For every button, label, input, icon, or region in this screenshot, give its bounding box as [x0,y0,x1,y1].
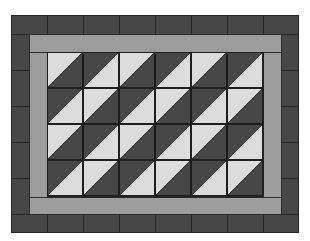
half-square-triangle-icon [84,161,118,195]
outer-border-block-top [47,15,84,35]
gray-strip-top [29,34,282,53]
hst-cell [191,88,227,124]
half-square-triangle-icon [48,53,82,87]
outer-border-block-top [83,15,120,35]
outer-border-block-bottom [191,214,228,233]
half-square-triangle-icon [228,161,262,195]
outer-border-block-top [227,15,264,35]
hst-cell [227,160,263,196]
half-square-triangle-icon [156,161,190,195]
hst-cell [155,124,191,160]
half-square-triangle-icon [156,53,190,87]
outer-border-block-top [155,15,192,35]
half-square-triangle-icon [120,125,154,159]
half-square-triangle-icon [192,125,226,159]
hst-cell [119,52,155,88]
hst-cell [47,124,83,160]
outer-border-block-bottom [47,214,84,233]
half-square-triangle-icon [192,161,226,195]
outer-border-block-bottom [11,214,48,233]
half-square-triangle-icon [120,89,154,123]
gray-strip-right [263,52,282,198]
outer-border-block-bottom [155,214,192,233]
center-field [47,52,264,197]
outer-border-block-top [11,15,48,35]
hst-cell [83,160,119,196]
hst-cell [191,52,227,88]
half-square-triangle-icon [192,53,226,87]
half-square-triangle-icon [48,161,82,195]
hst-cell [47,52,83,88]
hst-cell [119,160,155,196]
outer-border-block-top [263,15,299,35]
half-square-triangle-icon [84,89,118,123]
hst-cell [155,52,191,88]
outer-border-block-left [11,34,30,71]
outer-border-block-right [281,34,299,71]
outer-border-block-bottom [119,214,156,233]
outer-border-block-right [281,178,299,215]
outer-border-block-right [281,70,299,107]
hst-cell [227,88,263,124]
hst-cell [155,160,191,196]
hst-cell [83,52,119,88]
gray-strip-bottom [29,197,282,215]
half-square-triangle-icon [228,89,262,123]
half-square-triangle-icon [156,89,190,123]
hst-cell [191,160,227,196]
outer-border-block-right [281,106,299,143]
outer-border-block-left [11,142,30,179]
half-square-triangle-icon [192,89,226,123]
half-square-triangle-icon [84,53,118,87]
hst-cell [227,52,263,88]
hst-cell [47,160,83,196]
outer-border-block-left [11,178,30,215]
hst-cell [83,124,119,160]
outer-border-block-left [11,70,30,107]
hst-cell [83,88,119,124]
half-square-triangle-icon [120,53,154,87]
outer-border-block-top [119,15,156,35]
outer-border-block-left [11,106,30,143]
half-square-triangle-icon [48,89,82,123]
outer-border-block-bottom [263,214,299,233]
hst-cell [227,124,263,160]
hst-cell [155,88,191,124]
half-square-triangle-icon [228,53,262,87]
half-square-triangle-icon [156,125,190,159]
outer-border-block-top [191,15,228,35]
outer-border-block-bottom [227,214,264,233]
hst-cell [119,124,155,160]
half-square-triangle-icon [84,125,118,159]
half-square-triangle-icon [120,161,154,195]
hst-cell [191,124,227,160]
quilt-diagram [11,15,299,233]
hst-cell [47,88,83,124]
outer-border-block-bottom [83,214,120,233]
half-square-triangle-icon [228,125,262,159]
half-square-triangle-icon [48,125,82,159]
hst-cell [119,88,155,124]
gray-strip-left [29,52,48,198]
outer-border-block-right [281,142,299,179]
